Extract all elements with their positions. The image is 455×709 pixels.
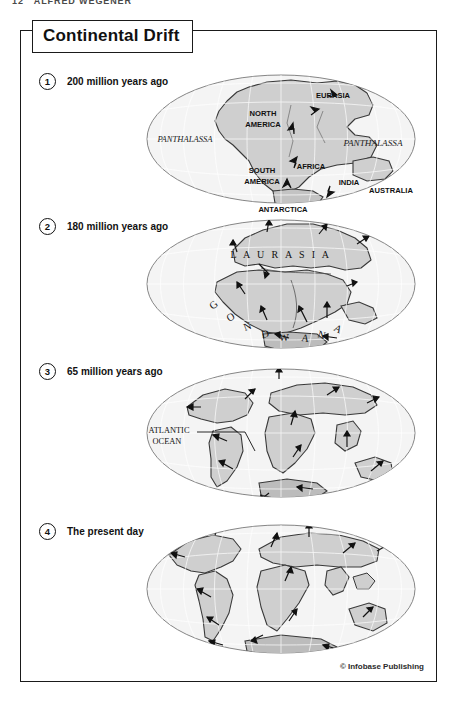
label-south-america-line2: AMERICA [244, 177, 280, 186]
figure-credit: © Infobase Publishing [340, 662, 424, 671]
figure-frame: Continental Drift 1 200 million years ag… [20, 30, 437, 682]
page-folio: 12 [12, 0, 24, 6]
panel-3-step-number: 3 [39, 363, 56, 380]
label-north-america-line1: NORTH [250, 109, 277, 118]
panel-1-step-number: 1 [39, 73, 56, 90]
panel-2-globe: L A U R A S I A G O N D W A N A [141, 210, 421, 360]
figure-title: Continental Drift [43, 26, 180, 46]
label-ocean: OCEAN [153, 437, 182, 446]
panel-4-step-number: 4 [39, 523, 56, 540]
label-india: INDIA [339, 178, 360, 187]
label-australia: AUSTRALIA [369, 186, 413, 195]
panel-3-globe: ATLANTIC OCEAN [141, 359, 421, 509]
panel-4-map-svg [141, 515, 421, 665]
panel-3: 3 65 million years ago [21, 357, 436, 517]
panel-3-map-svg: ATLANTIC OCEAN [141, 359, 421, 509]
label-africa: AFRICA [297, 162, 326, 171]
page-running-head: 12ALFRED WEGENER [12, 0, 132, 6]
panel-2-step-number: 2 [39, 218, 56, 235]
figure-title-box: Continental Drift [32, 20, 193, 53]
panel-1-map-svg: NORTH AMERICA SOUTH AMERICA EURASIA AFRI… [141, 65, 421, 215]
panel-2: 2 180 million years ago [21, 212, 436, 357]
label-laurasia: L A U R A S I A [231, 249, 332, 260]
label-atlantic: ATLANTIC [149, 426, 190, 435]
label-north-america-line2: AMERICA [245, 120, 281, 129]
label-eurasia: EURASIA [316, 91, 351, 100]
label-panthalassa-left: PANTHALASSA [156, 134, 213, 144]
label-south-america-line1: SOUTH [249, 166, 276, 175]
running-title: ALFRED WEGENER [34, 0, 132, 6]
panel-2-map-svg: L A U R A S I A G O N D W A N A [141, 210, 421, 360]
panel-1-globe: NORTH AMERICA SOUTH AMERICA EURASIA AFRI… [141, 65, 421, 215]
label-panthalassa-right: PANTHALASSA [342, 138, 402, 148]
gondwana-letter-w: W [279, 332, 289, 343]
panel-4-globe [141, 515, 421, 665]
panel-4-caption-text: The present day [67, 526, 144, 537]
panel-1: 1 200 million years ago [21, 67, 436, 212]
panel-4-caption: 4 The present day [39, 523, 144, 540]
panel-4: 4 The present day [21, 517, 436, 662]
